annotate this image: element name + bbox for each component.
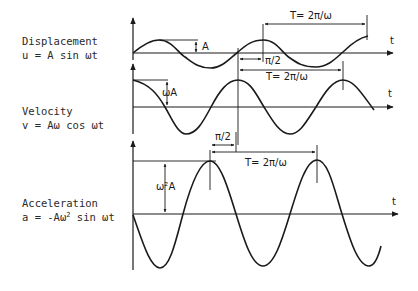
- acceleration-period-label: T= 2π/ω: [244, 157, 287, 168]
- displacement-period-label: T= 2π/ω: [289, 10, 332, 21]
- phase-label-1: π/2: [265, 55, 281, 66]
- velocity-period-label: T= 2π/ω: [265, 71, 308, 82]
- displacement-curve: [133, 36, 368, 68]
- displacement-amplitude-label: A: [202, 41, 209, 52]
- phase-label-2: π/2: [215, 131, 231, 142]
- velocity-amplitude-label: ωA: [162, 87, 177, 98]
- displacement-label: Displacement u = A sin ωt: [22, 35, 98, 61]
- displacement-t-label: t: [390, 35, 394, 46]
- velocity-t-label: t: [388, 88, 392, 99]
- displacement-plot: t A T= 2π/ω π/2: [133, 10, 394, 68]
- acceleration-title: Acceleration: [22, 197, 98, 209]
- velocity-label: Velocity v = Aω cos ωt: [22, 105, 104, 131]
- acceleration-t-label: t: [392, 196, 396, 207]
- acceleration-label: Acceleration a = -Aω2 sin ωt: [22, 197, 115, 223]
- displacement-title: Displacement: [22, 35, 98, 47]
- velocity-equation: v = Aω cos ωt: [22, 119, 104, 131]
- displacement-equation: u = A sin ωt: [22, 49, 98, 61]
- velocity-title: Velocity: [22, 105, 73, 117]
- harmonic-motion-diagram: Displacement u = A sin ωt Velocity v = A…: [0, 0, 418, 291]
- acceleration-equation: a = -Aω2 sin ωt: [22, 211, 115, 223]
- velocity-plot: t ωA T= 2π/ω: [133, 48, 393, 145]
- acceleration-amplitude-label: ω²A: [156, 181, 175, 192]
- acceleration-plot: t ω²A T= 2π/ω π/2: [133, 131, 398, 270]
